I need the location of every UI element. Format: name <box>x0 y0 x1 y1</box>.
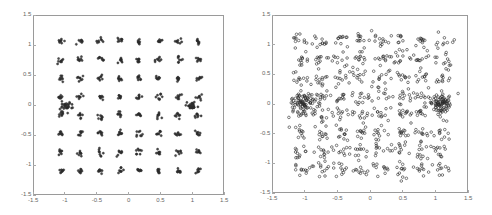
x-tick-mark <box>128 192 129 195</box>
x-tick-label: 1.5 <box>220 197 228 203</box>
x-tick-label: 0 <box>369 195 372 201</box>
x-tick-label: 1.5 <box>464 195 472 201</box>
plot-axes <box>33 15 224 195</box>
y-tick-label: 1.5 <box>262 11 270 17</box>
y-tick-mark <box>33 75 36 76</box>
y-tick-label: 0 <box>267 100 270 106</box>
y-tick-label: -0.5 <box>21 131 31 137</box>
x-tick-mark <box>402 190 403 193</box>
y-tick-label: -1.5 <box>260 189 270 195</box>
y-tick-mark <box>33 45 36 46</box>
x-tick-mark <box>304 190 305 193</box>
x-tick-mark <box>337 190 338 193</box>
x-tick-label: 0.5 <box>399 195 407 201</box>
x-tick-label: -1 <box>302 195 307 201</box>
y-tick-label: -1 <box>265 159 270 165</box>
x-tick-mark <box>468 190 469 193</box>
y-tick-mark <box>272 163 275 164</box>
y-tick-mark <box>33 165 36 166</box>
y-tick-label: 1 <box>267 41 270 47</box>
x-tick-label: -1.5 <box>267 195 277 201</box>
y-tick-mark <box>33 105 36 106</box>
x-tick-label: 0.5 <box>156 197 164 203</box>
y-tick-label: 1.5 <box>23 11 31 17</box>
x-tick-label: -0.5 <box>92 197 102 203</box>
x-tick-mark <box>370 190 371 193</box>
x-tick-label: 1 <box>191 197 194 203</box>
scatter-points <box>34 16 225 196</box>
scatter-points <box>273 16 469 194</box>
y-tick-label: 0.5 <box>262 70 270 76</box>
y-tick-mark <box>272 193 275 194</box>
x-tick-label: -1 <box>62 197 67 203</box>
y-tick-mark <box>33 135 36 136</box>
x-tick-label: -1.5 <box>28 197 38 203</box>
y-tick-mark <box>272 15 275 16</box>
x-tick-mark <box>160 192 161 195</box>
x-tick-label: 1 <box>434 195 437 201</box>
y-tick-label: -0.5 <box>260 130 270 136</box>
x-tick-mark <box>64 192 65 195</box>
x-tick-label: -0.5 <box>332 195 342 201</box>
x-tick-label: 0 <box>127 197 130 203</box>
y-tick-mark <box>272 104 275 105</box>
x-tick-mark <box>224 192 225 195</box>
y-tick-mark <box>33 195 36 196</box>
y-tick-mark <box>272 44 275 45</box>
y-tick-label: 0.5 <box>23 71 31 77</box>
y-tick-label: -1.5 <box>21 191 31 197</box>
x-tick-mark <box>96 192 97 195</box>
x-tick-mark <box>192 192 193 195</box>
y-tick-mark <box>272 74 275 75</box>
y-tick-mark <box>33 15 36 16</box>
plot-axes <box>272 15 468 193</box>
y-tick-label: 1 <box>28 41 31 47</box>
y-tick-mark <box>272 133 275 134</box>
y-tick-label: -1 <box>26 161 31 167</box>
y-tick-label: 0 <box>28 101 31 107</box>
x-tick-mark <box>435 190 436 193</box>
